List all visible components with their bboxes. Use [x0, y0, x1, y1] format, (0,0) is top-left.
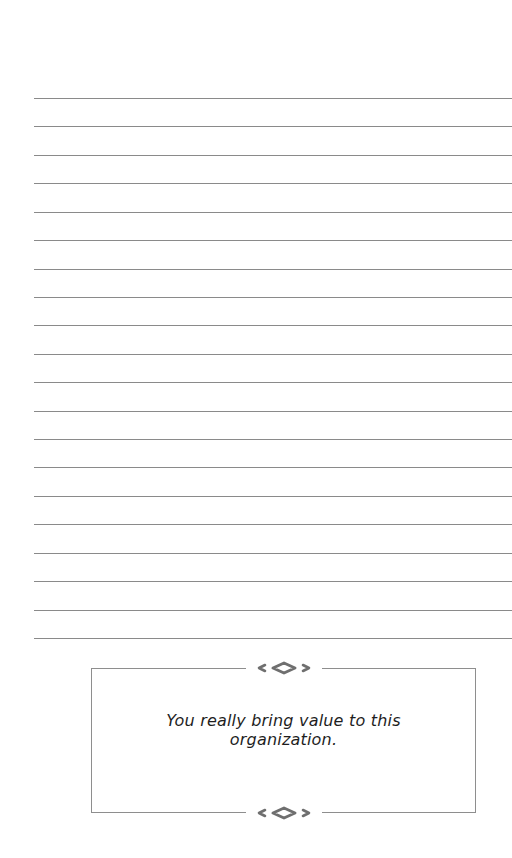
ruled-line [34, 496, 512, 497]
ruled-line [34, 354, 512, 355]
ruled-line [34, 212, 512, 213]
ruled-line [34, 638, 512, 639]
ruled-line [34, 411, 512, 412]
ruled-line [34, 155, 512, 156]
ruled-line [34, 269, 512, 270]
quote-box: You really bring value to this organizat… [91, 668, 476, 813]
ruled-line [34, 467, 512, 468]
ruled-line [34, 382, 512, 383]
ruled-line [34, 183, 512, 184]
quote-line-2: organization. [132, 730, 435, 749]
diamond-flourish-icon [246, 806, 322, 820]
ruled-line [34, 581, 512, 582]
ruled-line [34, 325, 512, 326]
ruled-lines [34, 0, 512, 660]
ruled-line [34, 610, 512, 611]
quote-text: You really bring value to this organizat… [92, 711, 475, 749]
diamond-flourish-icon [246, 661, 322, 675]
ruled-line [34, 98, 512, 99]
quote-line-1: You really bring value to this [132, 711, 435, 730]
ruled-line [34, 240, 512, 241]
ruled-line [34, 524, 512, 525]
ruled-line [34, 553, 512, 554]
ruled-line [34, 126, 512, 127]
ruled-line [34, 439, 512, 440]
ruled-line [34, 297, 512, 298]
